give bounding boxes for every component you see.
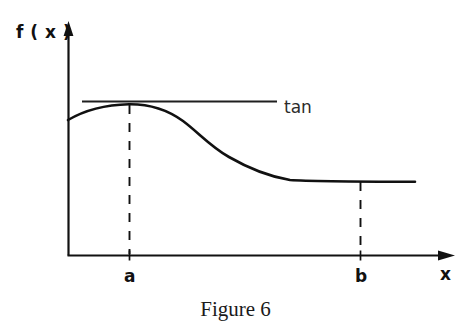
x-axis-arrowhead (438, 251, 455, 261)
figure-caption: Figure 6 (0, 299, 471, 320)
x-axis (68, 251, 456, 261)
x-axis-label: x (440, 266, 451, 283)
tangent-label: tan (284, 99, 312, 116)
x-tick-label-a: a (124, 268, 135, 285)
y-axis (64, 21, 74, 256)
figure-graphic (0, 0, 471, 330)
figure-container: f ( x ) x tan a b Figure 6 (0, 0, 471, 330)
x-tick-label-b: b (355, 268, 367, 285)
function-curve (68, 104, 415, 182)
y-axis-label: f ( x ) (16, 24, 71, 41)
